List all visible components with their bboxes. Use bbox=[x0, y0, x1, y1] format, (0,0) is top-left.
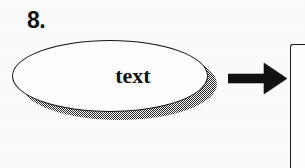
ellipse-node[interactable]: text bbox=[12, 40, 222, 130]
right-rect-node[interactable] bbox=[290, 44, 305, 168]
ellipse-text-label: text bbox=[12, 40, 208, 112]
arrow-connector[interactable] bbox=[228, 63, 288, 95]
figure-canvas: 8. text bbox=[0, 0, 305, 168]
right-arrow-icon bbox=[228, 63, 288, 95]
item-number-label: 8. bbox=[27, 9, 45, 32]
